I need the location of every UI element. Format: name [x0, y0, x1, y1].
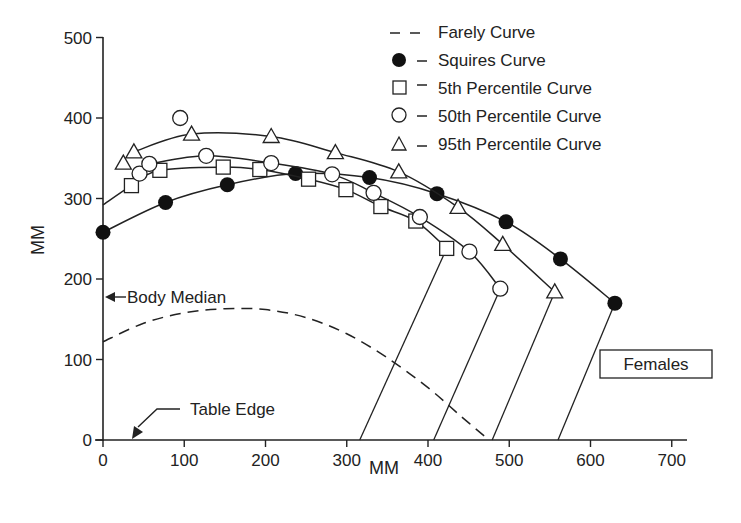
filled-circle-marker [96, 225, 111, 240]
table-edge-label: Table Edge [190, 400, 275, 419]
filled-circle-marker [553, 251, 568, 266]
filled-circle-marker [220, 177, 235, 192]
y-ticks: 0100200300400500 [64, 29, 103, 451]
body-median-annotation: Body Median [105, 288, 226, 307]
axes [95, 37, 687, 441]
y-tick-label: 400 [64, 109, 92, 128]
open-square-marker [440, 241, 454, 255]
x-tick-label: 0 [98, 451, 107, 470]
x-tick-label: 300 [333, 451, 361, 470]
y-tick-label: 100 [64, 351, 92, 370]
filled-circle-icon [392, 53, 406, 67]
open-square-marker [216, 160, 230, 174]
open-circle-marker [493, 281, 508, 296]
x-tick-label: 400 [414, 451, 442, 470]
body-median-arrow-icon [105, 292, 115, 302]
open-circle-marker [366, 185, 381, 200]
drop-line [434, 289, 501, 440]
open-triangle-marker [450, 199, 466, 213]
open-circle-marker [412, 210, 427, 225]
table-edge-leader-line [138, 409, 180, 427]
y-tick-label: 0 [83, 431, 92, 450]
chart: 0100200300400500 0100200300400500600700 … [0, 0, 741, 523]
y-tick-label: 200 [64, 270, 92, 289]
series-50th-percentile-curve [132, 111, 508, 441]
legend-item-95th: 95th Percentile Curve [392, 135, 601, 154]
open-circle-marker [199, 148, 214, 163]
filled-circle-marker [607, 296, 622, 311]
body-median-label: Body Median [127, 288, 226, 307]
x-axis-title: MM [369, 458, 399, 478]
y-tick-label: 300 [64, 190, 92, 209]
open-circle-icon [392, 108, 406, 122]
legend-item-50th: 50th Percentile Curve [392, 107, 601, 126]
drop-line [492, 292, 555, 440]
table-edge-annotation: Table Edge [132, 400, 275, 439]
open-triangle-icon [392, 137, 406, 150]
x-tick-label: 500 [495, 451, 523, 470]
x-tick-label: 100 [170, 451, 198, 470]
females-label: Females [623, 355, 688, 374]
legend-label: 50th Percentile Curve [438, 107, 601, 126]
legend-label: 5th Percentile Curve [438, 79, 592, 98]
open-square-marker [302, 172, 316, 186]
legend-item-squires: Squires Curve [392, 51, 546, 70]
y-axis-title: MM [28, 225, 48, 255]
open-square-marker [374, 200, 388, 214]
filled-circle-marker [499, 214, 514, 229]
open-circle-marker [264, 156, 279, 171]
legend-label: 95th Percentile Curve [438, 135, 601, 154]
table-edge-arrow-icon [132, 426, 143, 439]
legend-label: Farely Curve [438, 23, 535, 42]
legend-item-farely: Farely Curve [390, 23, 535, 42]
x-tick-label: 200 [251, 451, 279, 470]
open-square-icon [393, 81, 406, 94]
legend-label: Squires Curve [438, 51, 546, 70]
y-tick-label: 500 [64, 29, 92, 48]
females-annotation: Females [600, 350, 712, 378]
drop-line [360, 248, 447, 440]
x-tick-label: 600 [576, 451, 604, 470]
legend-item-5th: 5th Percentile Curve [393, 79, 592, 98]
fit-curve [103, 173, 615, 303]
open-circle-marker [173, 111, 188, 126]
open-square-marker [339, 183, 353, 197]
farely-dashed-curve [103, 308, 489, 440]
series-farely-curve [103, 308, 489, 440]
x-tick-label: 700 [658, 451, 686, 470]
filled-circle-marker [362, 170, 377, 185]
open-circle-marker [325, 167, 340, 182]
legend: Farely Curve Squires Curve 5th Percentil… [390, 23, 601, 154]
open-triangle-marker [391, 164, 407, 178]
series-layer [96, 111, 623, 441]
open-circle-marker [142, 156, 157, 171]
open-triangle-marker [126, 144, 142, 158]
open-circle-marker [462, 244, 477, 259]
filled-circle-marker [158, 195, 173, 210]
